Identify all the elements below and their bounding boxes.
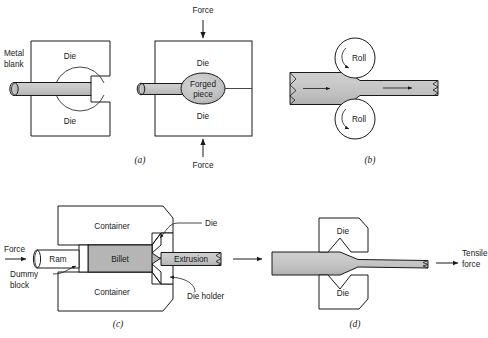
- roll-bottom: Roll: [335, 99, 375, 139]
- panel-b-rolling: Roll Roll (b): [290, 38, 438, 166]
- panel-caption-b: (b): [364, 155, 375, 166]
- label-die-bottom-left: Die: [64, 117, 77, 126]
- die-holder-leader: [170, 277, 195, 292]
- die-block-upper-left: [31, 41, 110, 83]
- forging-open-dies: Metal blank Die Die: [4, 41, 110, 136]
- label-dummy-block-line2: block: [10, 281, 30, 290]
- label-die-extrusion: Die: [205, 219, 218, 228]
- metal-forming-figure: Metal blank Die Die: [0, 0, 488, 338]
- panel-c-extrusion: Force Ram Container Container Billet Ext…: [4, 206, 262, 330]
- drawn-bar: [272, 252, 428, 275]
- label-metal-blank-line2: blank: [4, 60, 24, 69]
- panel-a-forging: Metal blank Die Die: [4, 6, 252, 170]
- label-extrusion: Extrusion: [174, 255, 209, 264]
- label-billet: Billet: [111, 255, 129, 264]
- label-tensile-force-line2: force: [462, 260, 481, 269]
- label-force-top: Force: [193, 6, 214, 15]
- label-die-bottom-drawing: Die: [337, 289, 350, 298]
- label-force-extrusion: Force: [4, 245, 25, 254]
- label-roll-bottom: Roll: [352, 115, 366, 124]
- panel-caption-c: (c): [113, 319, 124, 330]
- label-container-top: Container: [94, 222, 130, 231]
- dummy-block: [79, 245, 88, 272]
- label-container-bottom: Container: [94, 288, 130, 297]
- panel-caption-d: (d): [349, 319, 360, 330]
- label-die-holder: Die holder: [187, 292, 225, 301]
- roll-top: Roll: [335, 38, 375, 78]
- label-die-top-drawing: Die: [337, 227, 350, 236]
- label-die-bottom-right: Die: [197, 112, 210, 121]
- label-die-top-right: Die: [197, 59, 210, 68]
- label-roll-top: Roll: [352, 54, 366, 63]
- label-forged-piece-line1: Forged: [190, 80, 216, 89]
- forging-closed-dies: Die Die Forged piece Force Force: [137, 6, 252, 170]
- metal-blank-bar: [10, 82, 91, 95]
- label-dummy-block-line1: Dummy: [10, 270, 39, 279]
- label-ram: Ram: [49, 255, 66, 264]
- label-tensile-force-line1: Tensile: [462, 249, 488, 258]
- label-force-bottom: Force: [193, 161, 214, 170]
- label-forged-piece-line2: piece: [193, 90, 213, 99]
- panel-d-drawing: Tensile force Die Die (d): [272, 218, 488, 330]
- forged-stub-bar: [137, 83, 186, 95]
- label-die-top-left: Die: [64, 52, 77, 61]
- panel-caption-a: (a): [134, 155, 145, 166]
- label-metal-blank-line1: Metal: [4, 49, 24, 58]
- die-block-lower-left: [31, 95, 110, 136]
